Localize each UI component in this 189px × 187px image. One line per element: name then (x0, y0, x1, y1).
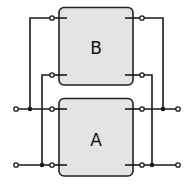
terminal-input-top (14, 107, 18, 111)
terminal-output-top (176, 107, 180, 111)
junction-node (150, 163, 155, 168)
junction-node (40, 163, 45, 168)
terminal-b-in-bottom (50, 73, 54, 77)
block-b: B (59, 8, 133, 86)
terminal-b-out-bottom (140, 73, 144, 77)
terminal-a-in-top (50, 107, 54, 111)
junction-node (161, 107, 166, 112)
terminal-input-bottom (14, 163, 18, 167)
terminal-b-out-top (140, 16, 144, 20)
block-a-label: A (90, 130, 102, 150)
terminal-b-in-top (50, 16, 54, 20)
junction-node (28, 107, 33, 112)
terminal-output-bottom (176, 163, 180, 167)
terminal-a-out-top (140, 107, 144, 111)
block-a: A (59, 99, 133, 177)
terminal-a-out-bottom (140, 163, 144, 167)
two-port-parallel-diagram: B A (0, 0, 189, 187)
terminal-a-in-bottom (50, 163, 54, 167)
block-b-label: B (90, 38, 102, 58)
